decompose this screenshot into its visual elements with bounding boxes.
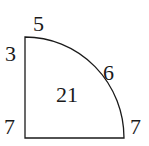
- label-bottom-right: 7: [130, 114, 141, 139]
- label-arc: 6: [103, 60, 114, 85]
- label-bottom-left: 7: [4, 114, 15, 139]
- label-center: 21: [56, 82, 78, 107]
- label-top: 5: [33, 11, 44, 36]
- quarter-circle-diagram: 5 3 6 21 7 7: [0, 0, 149, 146]
- label-left-top: 3: [5, 41, 16, 66]
